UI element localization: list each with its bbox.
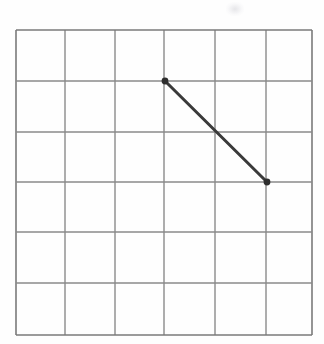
data-point-marker-end [264, 179, 271, 186]
data-point-marker-start [162, 78, 169, 85]
grid-plot-svg [0, 0, 324, 344]
figure-canvas [0, 0, 324, 344]
